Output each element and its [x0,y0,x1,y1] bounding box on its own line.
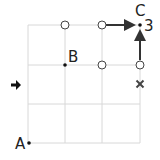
grid-lines [28,25,140,143]
point-b [63,63,67,67]
label-b: B [68,48,78,66]
path-arrows [106,25,140,60]
label-a: A [15,135,26,153]
grid-diagram: A B C 3 [0,0,160,160]
point-markers [27,23,142,145]
side-arrow-icon [11,80,21,90]
point-c [138,23,142,27]
corner-number: 3 [144,17,154,35]
point-a [27,141,31,145]
